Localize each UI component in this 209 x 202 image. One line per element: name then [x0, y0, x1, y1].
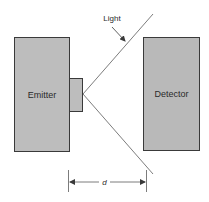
light-cone-upper-line [83, 14, 153, 94]
detector: Detector [144, 38, 200, 151]
detector-label: Detector [154, 89, 188, 99]
emitter: Emitter [15, 38, 83, 152]
light-pointer-arrow-icon [112, 27, 125, 41]
light-label: Light [103, 14, 121, 23]
emitter-label: Emitter [28, 90, 57, 100]
distance-label: d [102, 178, 107, 187]
distance-dimension: d [69, 170, 147, 192]
emitter-detector-diagram: Emitter Detector Light d [0, 0, 209, 202]
light-cone-lower-line [83, 94, 153, 174]
emitter-lens [70, 79, 83, 112]
